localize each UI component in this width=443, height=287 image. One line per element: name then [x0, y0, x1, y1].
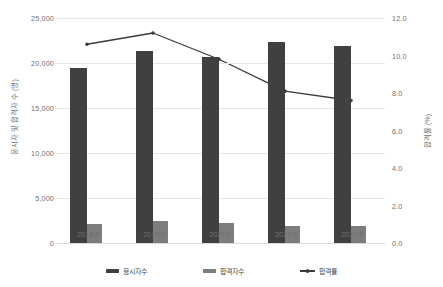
- bar-applicants: [202, 57, 219, 243]
- legend-item[interactable]: 합격률: [300, 266, 337, 276]
- x-axis-tick-label: 2019년: [121, 229, 187, 239]
- secondary-y-axis-tick-label: 2.0: [392, 202, 432, 211]
- legend-color-swatch-icon: [106, 269, 119, 273]
- rate-line-marker: [85, 42, 89, 46]
- x-axis-tick-label: 2018년: [55, 229, 121, 239]
- y-axis-tick-label: 0: [8, 239, 54, 248]
- legend-color-swatch-icon: [203, 269, 216, 273]
- secondary-y-axis-tick-label: 8.0: [392, 89, 432, 98]
- legend-label: 합격률: [319, 266, 337, 276]
- y-axis-tick-label: 5,000: [8, 194, 54, 203]
- y-axis-tick-label: 20,000: [8, 59, 54, 68]
- secondary-y-axis-tick-label: 12.0: [392, 14, 432, 23]
- combo-chart: 응시자 및 합격자 수 (명) 합격률 (%) 05,00010,00015,0…: [0, 0, 443, 287]
- legend-item[interactable]: 응시자수: [106, 266, 147, 276]
- chart-legend: 응시자수합격자수합격률: [0, 266, 443, 276]
- y-axis-tick-label: 25,000: [8, 14, 54, 23]
- y-axis-tick-label: 15,000: [8, 104, 54, 113]
- secondary-y-axis-tick-label: 4.0: [392, 164, 432, 173]
- gridline: [55, 18, 385, 19]
- rate-line-path: [87, 33, 351, 101]
- bar-applicants: [334, 46, 351, 243]
- plot-area: [55, 18, 385, 243]
- secondary-y-axis-tick-label: 10.0: [392, 52, 432, 61]
- x-axis-tick-label: 2021년: [253, 229, 319, 239]
- gridline: [55, 243, 385, 244]
- bar-applicants: [268, 42, 285, 243]
- legend-label: 합격자수: [220, 266, 244, 276]
- bar-applicants: [70, 68, 87, 243]
- x-axis-tick-label: 2022년: [319, 229, 385, 239]
- bar-applicants: [136, 51, 153, 243]
- x-axis-tick-label: 2020년: [187, 229, 253, 239]
- legend-line-swatch-icon: [300, 270, 315, 272]
- y-axis-tick-label: 10,000: [8, 149, 54, 158]
- rate-line-marker: [151, 31, 155, 35]
- secondary-y-axis-tick-label: 0.0: [392, 239, 432, 248]
- legend-label: 응시자수: [123, 266, 147, 276]
- secondary-y-axis-tick-label: 6.0: [392, 127, 432, 136]
- legend-item[interactable]: 합격자수: [203, 266, 244, 276]
